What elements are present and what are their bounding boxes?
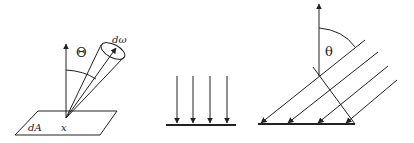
cone-edge-right xyxy=(66,57,124,118)
point-label: x xyxy=(61,122,67,133)
direction-arrow xyxy=(66,48,116,118)
angle-arc xyxy=(66,70,96,79)
panel-solid-angle xyxy=(15,39,128,135)
theta-label: Θ xyxy=(76,45,87,60)
radiance-diagram: Θ dω dA x θ xyxy=(0,0,414,143)
oblique-ray xyxy=(261,40,365,123)
area-label: dA xyxy=(28,122,42,133)
panel-normal-incidence xyxy=(166,76,236,125)
oblique-ray xyxy=(288,52,378,123)
theta-label: θ xyxy=(325,44,333,59)
oblique-ray xyxy=(346,80,397,123)
solid-angle-label: dω xyxy=(112,34,127,45)
panel-oblique-incidence xyxy=(258,4,397,124)
oblique-ray xyxy=(318,66,388,123)
